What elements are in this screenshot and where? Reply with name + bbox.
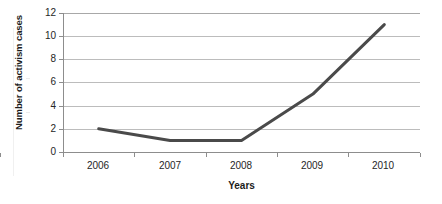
data-series-layer	[63, 13, 420, 152]
chart-screenshot: Number of activism cases 12 10 8 6 4 2	[0, 0, 442, 204]
x-axis-title: Years	[63, 180, 420, 191]
x-tick-label: 2010	[360, 160, 406, 171]
series-line-number-of-activism-cases	[99, 25, 385, 141]
line-chart: Number of activism cases 12 10 8 6 4 2	[0, 0, 442, 204]
x-tick-label: 2009	[289, 160, 335, 171]
x-tick-label: 2007	[147, 160, 193, 171]
x-tick-label: 2006	[75, 160, 121, 171]
x-tick-label: 2008	[218, 160, 264, 171]
